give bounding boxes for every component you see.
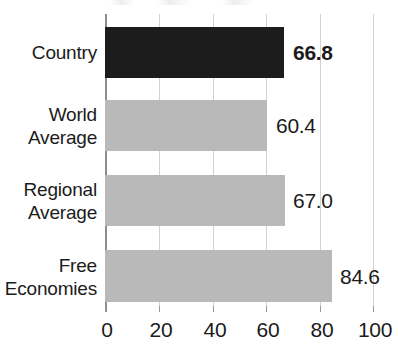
category-label-line: Country [0,41,97,64]
tick-mark-100 [373,306,374,312]
category-label-country: Country [0,41,97,64]
cropped-title-remnant [110,0,290,5]
category-label-world-average: World Average [0,103,97,149]
tick-label-60: 60 [257,318,280,342]
value-label-regional-average: 67.0 [293,190,333,211]
value-label-free-economies: 84.6 [340,266,380,287]
bar-country[interactable] [105,27,284,78]
tick-label-20: 20 [150,318,173,342]
category-label-line: Free [0,254,97,277]
category-label-line: Regional [0,178,97,201]
tick-mark-0 [105,306,106,312]
value-label-country: 66.8 [293,42,333,63]
tick-mark-60 [266,306,267,312]
category-label-line: Average [0,126,97,149]
tick-label-80: 80 [311,318,334,342]
category-label-free-economies: Free Economies [0,254,97,300]
bar-free-economies[interactable] [105,250,332,302]
category-label-line: World [0,103,97,126]
category-label-regional-average: Regional Average [0,178,97,224]
bar-chart: Country 66.8 World Average 60.4 Regional… [0,0,398,356]
value-label-world-average: 60.4 [276,115,316,136]
bar-regional-average[interactable] [105,175,285,226]
tick-label-100: 100 [358,318,392,342]
tick-label-40: 40 [204,318,227,342]
tick-mark-80 [320,306,321,312]
category-label-line: Average [0,201,97,224]
tick-label-0: 0 [101,318,112,342]
category-label-line: Economies [0,277,97,300]
bar-world-average[interactable] [105,100,267,151]
tick-mark-20 [159,306,160,312]
tick-mark-40 [213,306,214,312]
